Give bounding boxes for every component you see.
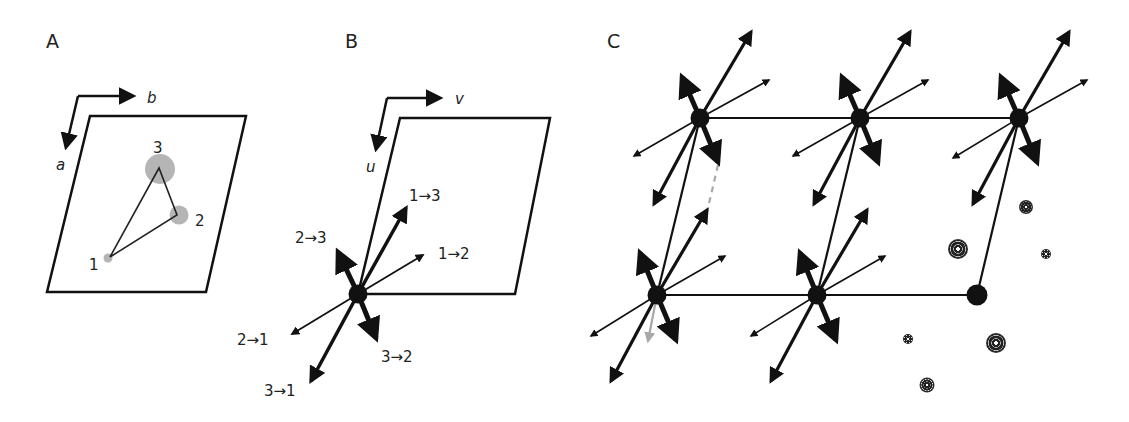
axis-arrows-b — [376, 98, 440, 149]
vec-1-3-arrow-icon — [817, 210, 867, 295]
panel-a-label: A — [46, 30, 59, 52]
lattice-node — [851, 109, 870, 128]
u-axis-arrow-icon — [376, 98, 387, 149]
lattice-node — [1010, 109, 1029, 128]
vec-1-3-arrow-icon — [860, 32, 910, 118]
vector-label-1-3: 1→3 — [409, 187, 441, 205]
vector-label-3-1: 3→1 — [264, 382, 296, 400]
axis-arrows-a — [66, 96, 133, 147]
node-star-top-middle — [793, 32, 928, 295]
edge-right — [977, 118, 1019, 295]
vec-1-3-arrow-icon — [657, 210, 707, 295]
site-3-label: 3 — [153, 139, 163, 157]
unit-cell-a — [47, 116, 246, 292]
a-axis-arrow-icon — [66, 96, 78, 147]
vector-label-2-3: 2→3 — [295, 229, 327, 247]
vec-3-1-arrow-icon — [973, 118, 1019, 204]
dashed-link — [707, 165, 718, 212]
lattice-node-empty — [967, 285, 988, 306]
axis-a-label: a — [56, 156, 65, 174]
axis-v-label: v — [455, 90, 465, 108]
panel-b: B v u 1→3 1→2 2→3 2→1 3→2 3→1 — [237, 30, 550, 400]
ring-marker-icon — [986, 333, 1006, 353]
ring-marker-icon — [1041, 249, 1051, 259]
origin-node — [349, 285, 368, 304]
vector-label-1-2: 1→2 — [438, 245, 470, 263]
vec-1-3-arrow-icon — [1019, 32, 1069, 118]
panel-c-label: C — [607, 30, 620, 52]
edge-left — [657, 118, 700, 295]
vector-label-3-2: 3→2 — [381, 348, 413, 366]
panel-c: C — [591, 30, 1087, 393]
ring-marker-icon — [920, 378, 935, 393]
panel-b-label: B — [345, 30, 358, 52]
vec-1-3-arrow-icon — [700, 32, 751, 118]
vector-label-2-1: 2→1 — [237, 331, 269, 349]
vector-1-3-arrow-icon — [358, 208, 406, 294]
site-1-label: 1 — [89, 256, 99, 274]
vector-3-1-arrow-icon — [311, 294, 358, 381]
panel-a: A b a 3 2 1 — [46, 30, 246, 292]
figure-canvas: A b a 3 2 1 B v u — [0, 0, 1129, 422]
ring-marker-icon — [903, 334, 913, 344]
edge-mid-vertical — [817, 118, 860, 295]
node-star-top-left — [634, 32, 769, 295]
ring-marker-icon — [948, 239, 968, 259]
site-2-label: 2 — [195, 212, 205, 230]
lattice-node — [648, 286, 667, 305]
site-2-disc — [170, 206, 189, 225]
lattice-node — [691, 109, 710, 128]
axis-b-label: b — [147, 89, 157, 107]
lattice-node — [808, 286, 827, 305]
vec-3-1-arrow-icon — [771, 295, 817, 381]
vec-3-1-arrow-icon — [611, 295, 657, 381]
ring-marker-icon — [1019, 200, 1033, 214]
unit-cell-b — [358, 118, 550, 294]
axis-u-label: u — [366, 158, 376, 176]
